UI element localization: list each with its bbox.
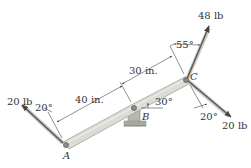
pin-A bbox=[63, 142, 68, 147]
force-label-C-up: 48 lb bbox=[198, 10, 224, 21]
angle-label-55: 55° bbox=[176, 39, 194, 50]
pin-C bbox=[183, 77, 188, 82]
point-label-B: B bbox=[141, 111, 149, 122]
angle-label-A: 20° bbox=[35, 102, 53, 113]
point-label-A: A bbox=[62, 150, 70, 161]
angle-label-C-down: 20° bbox=[200, 111, 218, 122]
lever-diagram: 20 lb 20° 40 in. 30 in. 55° 48 lb 30° 20… bbox=[0, 0, 251, 168]
force-label-A: 20 lb bbox=[7, 96, 33, 107]
pin-B bbox=[131, 105, 136, 110]
dimension-label-AB: 40 in. bbox=[75, 94, 104, 105]
lever-member bbox=[63, 76, 189, 149]
angle-label-30: 30° bbox=[155, 96, 173, 107]
force-label-C-down: 20 lb bbox=[222, 120, 248, 131]
dimension-label-BC: 30 in. bbox=[129, 65, 158, 76]
point-label-C: C bbox=[190, 71, 198, 82]
